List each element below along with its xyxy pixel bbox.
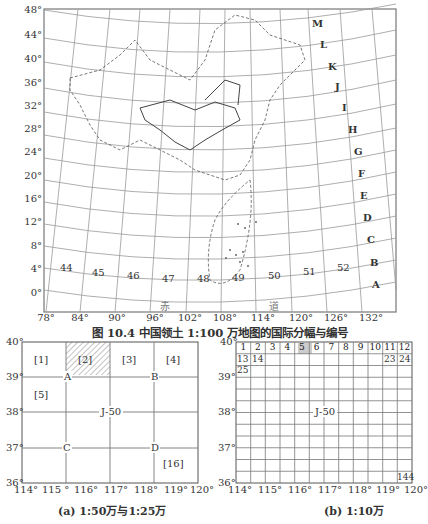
lat-label: 40° — [6, 336, 24, 347]
lon-label: 118° — [134, 484, 158, 495]
row-letter: A — [372, 279, 380, 290]
lon-label: 116° — [288, 484, 312, 495]
column-number: 50 — [268, 270, 281, 281]
row-letter: D — [363, 212, 372, 223]
sheet-label-highlighted: [2] — [78, 354, 92, 365]
cell-number: 24 — [399, 354, 410, 364]
lon-label: 108° — [208, 312, 242, 323]
column-number: 44 — [60, 262, 73, 273]
sheet-label: [16] — [163, 458, 184, 469]
cell-number: 8 — [339, 342, 354, 352]
lon-label: 90° — [100, 312, 134, 323]
lon-label: 119° — [164, 484, 188, 495]
row-letter: G — [354, 146, 363, 157]
cell-number: 23 — [384, 354, 395, 364]
panel-a-caption: (a) 1:50万与1:25万 — [58, 502, 166, 518]
lat-label: 12° — [2, 216, 42, 227]
lon-label: 114° — [246, 312, 280, 323]
lon-label: 132° — [354, 312, 388, 323]
row-letter: M — [312, 18, 323, 29]
lat-label: 16° — [2, 193, 42, 204]
row-letter: C — [367, 234, 375, 245]
panel-a: 40° 39° 38° 37° 36° 114° 115 ° 116° 117°… — [0, 340, 214, 524]
lon-label: 96° — [138, 312, 172, 323]
cell-number: 6 — [309, 342, 324, 352]
cell-number: 1 — [236, 342, 251, 352]
lon-label: 115 ° — [42, 484, 69, 495]
cell-number: 10 — [368, 342, 383, 352]
row-letter: K — [328, 61, 337, 72]
cell-number: 4 — [280, 342, 295, 352]
lon-label: 117° — [104, 484, 128, 495]
cell-number: 12 — [397, 342, 412, 352]
lon-label: 102° — [173, 312, 207, 323]
lon-label: 84° — [63, 312, 97, 323]
lon-label: 120° — [190, 484, 214, 495]
cell-number: 14 — [252, 354, 263, 364]
panel-b-grid — [214, 340, 428, 500]
cell-number: 25 — [237, 365, 248, 375]
lat-label: 8° — [2, 240, 42, 251]
lon-label: 126° — [319, 312, 353, 323]
lon-label: 120° — [404, 484, 428, 495]
cell-number: 7 — [324, 342, 339, 352]
panel-a-grid — [0, 340, 214, 500]
row-letter: I — [342, 102, 347, 113]
column-number: 45 — [92, 267, 105, 278]
lat-label: 37° — [6, 442, 24, 453]
lon-label: 114° — [228, 484, 252, 495]
lat-label: 44° — [2, 29, 42, 40]
sheet-label: [4] — [166, 354, 180, 365]
lon-label: 120° — [284, 312, 318, 323]
sheet-id-label: J-50 — [313, 406, 337, 417]
row-letter: H — [348, 124, 357, 135]
sheet-label: [1] — [34, 354, 48, 365]
cell-number: 9 — [353, 342, 368, 352]
lat-label: 0° — [2, 287, 42, 298]
row-letter: B — [370, 257, 378, 268]
lat-label: 39° — [218, 371, 236, 382]
lat-label: 38° — [6, 406, 24, 417]
column-number: 49 — [232, 272, 245, 283]
cell-number: 13 — [237, 354, 248, 364]
panel-b: 40° 39° 38° 37° 36° 114° 115° 116° 117° … — [214, 340, 428, 524]
cell-number-highlighted: 5 — [295, 342, 310, 352]
row-letter: E — [360, 190, 368, 201]
lon-label: 116° — [74, 484, 98, 495]
point-label: C — [62, 442, 72, 453]
lat-label: 36° — [2, 77, 42, 88]
lat-label: 37° — [218, 442, 236, 453]
lat-label: 39° — [6, 371, 24, 382]
lat-label: 20° — [2, 170, 42, 181]
equator-label-right: 道 — [269, 298, 279, 313]
sheet-id-label: J-50 — [99, 406, 123, 417]
lon-label: 118° — [348, 484, 372, 495]
lat-label: 24° — [2, 146, 42, 157]
point-label: A — [63, 371, 72, 382]
cell-number: 3 — [265, 342, 280, 352]
row-letter: J — [335, 81, 340, 92]
cell-number: 144 — [397, 472, 414, 482]
lat-label: 38° — [218, 406, 236, 417]
lon-label: 78° — [29, 312, 63, 323]
equator-label-left: 赤 — [160, 298, 170, 313]
point-label: B — [150, 371, 159, 382]
lat-label: 48° — [2, 4, 42, 15]
row-letter: L — [320, 39, 327, 50]
cell-number: 11 — [383, 342, 398, 352]
lat-label: 28° — [2, 123, 42, 134]
lon-label: 119° — [376, 484, 400, 495]
panel-b-top-row: 1 2 3 4 5 6 7 8 9 10 11 12 — [236, 342, 412, 352]
column-number: 51 — [303, 266, 316, 277]
point-label: D — [150, 442, 160, 453]
column-number: 52 — [337, 262, 350, 273]
column-number: 46 — [127, 270, 140, 281]
panel-b-caption: (b) 1:10万 — [324, 502, 384, 518]
sheet-label: [3] — [122, 354, 136, 365]
lon-label: 117° — [318, 484, 342, 495]
cell-number: 2 — [251, 342, 266, 352]
lon-label: 115° — [258, 484, 282, 495]
column-number: 48 — [197, 273, 210, 284]
column-number: 47 — [162, 273, 175, 284]
row-letter: F — [358, 168, 365, 179]
